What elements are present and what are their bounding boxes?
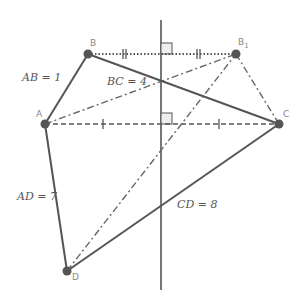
segment-AB xyxy=(45,54,88,124)
solid-segments xyxy=(45,54,279,271)
segment-BC xyxy=(88,54,279,124)
point-B xyxy=(84,50,93,59)
geometry-diagram: A B B1 C D AB = 1 BC = 4 AD = 7 CD = 8 xyxy=(0,0,301,305)
segment-DC xyxy=(67,124,279,271)
right-angle-marker-top xyxy=(161,43,172,54)
point-C xyxy=(275,120,284,129)
label-A: A xyxy=(36,109,43,119)
label-B1: B1 xyxy=(238,37,249,50)
segment-DB1 xyxy=(67,54,236,271)
segment-AB1 xyxy=(45,54,236,124)
segment-B1C xyxy=(236,54,279,124)
length-label-AD: AD = 7 xyxy=(16,190,57,203)
point-B1 xyxy=(232,50,241,59)
points xyxy=(41,50,284,276)
label-B1-sub: 1 xyxy=(244,42,248,50)
length-label-AB: AB = 1 xyxy=(21,71,61,84)
point-D xyxy=(63,267,72,276)
label-C: C xyxy=(283,109,289,119)
label-B: B xyxy=(90,38,96,48)
length-label-CD: CD = 8 xyxy=(177,198,217,211)
length-label-BC: BC = 4 xyxy=(106,75,147,88)
dash-dot-segments xyxy=(45,54,279,271)
point-A xyxy=(41,120,50,129)
label-D: D xyxy=(72,272,79,282)
right-angle-marker-middle xyxy=(161,113,172,124)
